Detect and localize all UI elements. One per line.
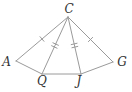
congruence-tick-cj-1 [71,43,77,44]
geometry-diagram: CAQJG [0,0,132,92]
vertex-label-a: A [1,55,11,69]
segment-cj [68,17,81,74]
vertex-label-j: J [74,74,83,88]
segment-cq [42,17,68,74]
vertex-label-g: G [117,55,127,69]
geometry-figure: CAQJG [0,0,132,92]
segment-aq [16,61,42,74]
congruence-tick-cj-2 [72,46,78,47]
vertex-label-c: C [64,2,73,16]
vertex-label-q: Q [37,74,47,88]
segment-jg [81,62,113,74]
